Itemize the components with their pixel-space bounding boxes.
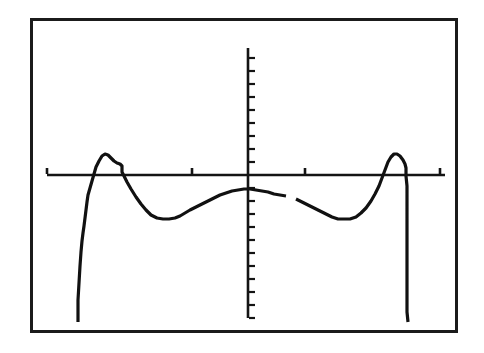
plot-svg	[0, 0, 484, 353]
plot-curve-group	[78, 154, 408, 322]
x-axis-ticks	[47, 168, 440, 174]
plot-curve-segment-left	[78, 154, 286, 322]
screenshot-root	[0, 0, 484, 353]
plot-curve-segment-right	[296, 154, 408, 322]
axes-group	[47, 48, 445, 318]
plot-canvas[interactable]	[0, 0, 484, 353]
